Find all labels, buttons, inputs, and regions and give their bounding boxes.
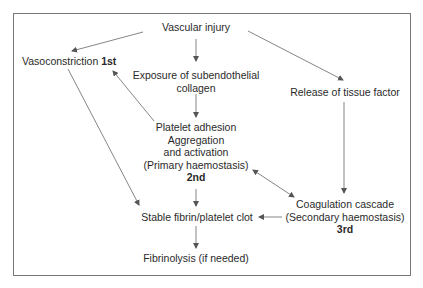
node-label: Exposure of subendothelial [131, 69, 261, 82]
node-label: Stable fibrin/platelet clot [141, 211, 252, 223]
order-label: 1st [101, 55, 116, 67]
edge-injury-vasoconstriction [72, 32, 143, 51]
node-label: Vasoconstriction [22, 55, 98, 67]
node-label: (Secondary haemostasis) [283, 211, 407, 224]
node-coagulation: Coagulation cascade (Secondary haemostas… [283, 198, 407, 236]
node-label: (Primary haemostasis) [141, 159, 251, 172]
node-vascular-injury: Vascular injury [146, 21, 246, 34]
node-clot: Stable fibrin/platelet clot [138, 211, 256, 224]
node-label: Vascular injury [162, 21, 230, 33]
node-label: Platelet adhesion [141, 121, 251, 134]
edge-injury-tissue [248, 31, 343, 80]
node-label: Release of tissue factor [290, 86, 400, 98]
node-label: collagen [131, 82, 261, 95]
node-label: Fibrinolysis (if needed) [143, 252, 249, 264]
edge-platelet-coag [253, 170, 294, 197]
node-label: Aggregation [141, 134, 251, 147]
node-platelet: Platelet adhesion Aggregation and activa… [141, 121, 251, 184]
order-label: 3rd [337, 223, 353, 235]
node-label: Coagulation cascade [283, 198, 407, 211]
node-exposure: Exposure of subendothelial collagen [131, 69, 261, 94]
order-label: 2nd [187, 171, 206, 183]
node-label: and activation [141, 146, 251, 159]
node-vasoconstriction: Vasoconstriction 1st [22, 55, 116, 68]
node-tissue-factor: Release of tissue factor [290, 86, 400, 99]
node-fibrinolysis: Fibrinolysis (if needed) [141, 252, 251, 265]
